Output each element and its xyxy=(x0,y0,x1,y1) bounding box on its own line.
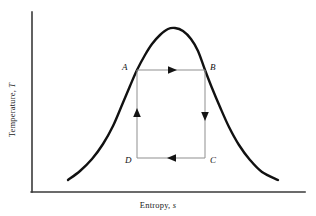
carnot-cycle-rectangle xyxy=(137,70,205,158)
point-label-a: A xyxy=(122,62,128,72)
point-label-b: B xyxy=(210,62,216,72)
arrow-b-to-c-icon xyxy=(201,112,209,121)
point-label-c: C xyxy=(210,155,216,165)
y-axis-label-symbol: T xyxy=(7,83,17,88)
arrow-a-to-b-icon xyxy=(168,66,177,74)
y-axis-label-prefix: Temperature, xyxy=(7,88,17,138)
diagram-canvas xyxy=(0,0,316,216)
axes-group xyxy=(31,12,305,192)
x-axis-label-symbol: s xyxy=(173,200,177,210)
x-axis-label-prefix: Entropy, xyxy=(140,200,173,210)
y-axis-label: Temperature, T xyxy=(7,60,17,160)
y-axis-label-wrap: Temperature, T xyxy=(0,0,32,216)
ts-diagram-figure: Temperature, T Entropy, s A B C D xyxy=(0,0,316,216)
point-label-d: D xyxy=(125,155,132,165)
x-axis-label: Entropy, s xyxy=(0,200,316,210)
arrow-d-to-a-icon xyxy=(133,108,141,117)
process-arrows-group xyxy=(133,66,209,162)
arrow-c-to-d-icon xyxy=(167,154,176,162)
